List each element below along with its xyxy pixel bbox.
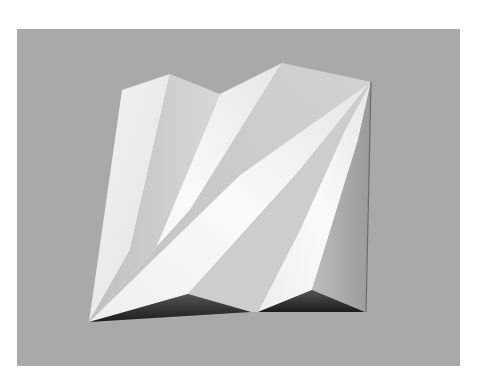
folded-paper-sculpture: [0, 0, 485, 381]
